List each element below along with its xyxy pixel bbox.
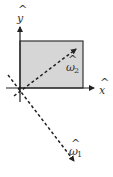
x-axis-label: x	[99, 84, 106, 97]
diagram-canvas: ^ y ^ x ^ ω 2 ^ ω 1	[0, 0, 113, 177]
y-axis-label: y	[16, 12, 24, 25]
omega1-subscript: 1	[77, 150, 82, 159]
omega2-subscript: 2	[74, 66, 79, 75]
origin-point	[19, 87, 22, 90]
